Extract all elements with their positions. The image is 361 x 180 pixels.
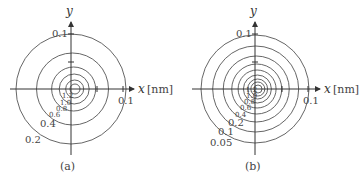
contour-label: 0.05 bbox=[210, 137, 232, 148]
contour-diagram: y x [nm] 0.1 0.1 1.2 1.0 0.8 0.6 0.4 0.2… bbox=[0, 0, 361, 180]
contour-label: 0.1 bbox=[218, 126, 234, 137]
contour-label: 0.4 bbox=[40, 118, 56, 129]
y-axis-label: y bbox=[65, 4, 73, 18]
x-tick-label: 0.1 bbox=[303, 95, 319, 106]
panel-b: y x [nm] 0.1 0.1 1.2 1.0 0.8 0.6 0.4 0.2… bbox=[192, 4, 359, 173]
panel-caption: (a) bbox=[60, 160, 75, 173]
y-tick-label: 0.1 bbox=[52, 28, 68, 39]
x-axis-unit: [nm] bbox=[147, 83, 173, 96]
y-tick-label: 0.1 bbox=[236, 28, 252, 39]
panel-caption: (b) bbox=[245, 160, 261, 173]
x-tick-label: 0.1 bbox=[118, 95, 134, 106]
y-axis-label: y bbox=[249, 4, 257, 18]
panel-a: y x [nm] 0.1 0.1 1.2 1.0 0.8 0.6 0.4 0.2… bbox=[10, 4, 173, 173]
x-axis-label: x bbox=[138, 82, 145, 96]
contour-label: 0.2 bbox=[25, 134, 41, 145]
contour-labels: 1.2 1.0 0.8 0.6 0.4 0.2 bbox=[25, 92, 73, 145]
x-axis-label: x bbox=[324, 82, 331, 96]
x-axis-unit: [nm] bbox=[333, 83, 359, 96]
